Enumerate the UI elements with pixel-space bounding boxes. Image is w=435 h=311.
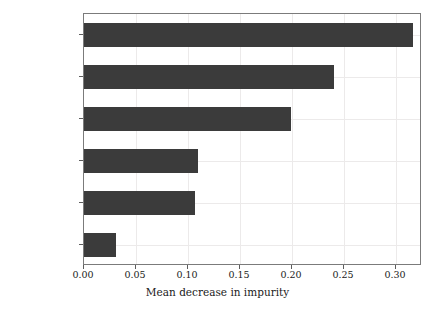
- x-tick-label: 0.25: [332, 269, 353, 280]
- gridline-vertical: [188, 14, 189, 264]
- gridline-vertical: [240, 14, 241, 264]
- x-tick-label: 0.10: [176, 269, 197, 280]
- bar: [84, 191, 195, 214]
- bar: [84, 65, 334, 88]
- y-tick-mark: [79, 34, 83, 35]
- bar: [84, 149, 198, 172]
- y-tick-mark: [79, 160, 83, 161]
- y-tick-mark: [79, 244, 83, 245]
- y-tick-mark: [79, 76, 83, 77]
- x-tick-label: 0.30: [384, 269, 405, 280]
- bar-chart-figure: capital-gaineducation-numagehours-per-we…: [0, 0, 435, 311]
- x-axis-label: Mean decrease in impurity: [0, 286, 435, 298]
- gridline-vertical: [344, 14, 345, 264]
- x-tick-label: 0.15: [228, 269, 249, 280]
- y-tick-mark: [79, 202, 83, 203]
- gridline-vertical: [292, 14, 293, 264]
- bar: [84, 233, 116, 256]
- x-tick-label: 0.00: [72, 269, 93, 280]
- bar: [84, 23, 413, 46]
- gridline-vertical: [136, 14, 137, 264]
- gridline-horizontal: [84, 245, 420, 246]
- gridline-vertical: [396, 14, 397, 264]
- y-tick-mark: [79, 118, 83, 119]
- x-tick-label: 0.05: [124, 269, 145, 280]
- bar: [84, 107, 291, 130]
- plot-area: [83, 13, 421, 265]
- x-tick-label: 0.20: [280, 269, 301, 280]
